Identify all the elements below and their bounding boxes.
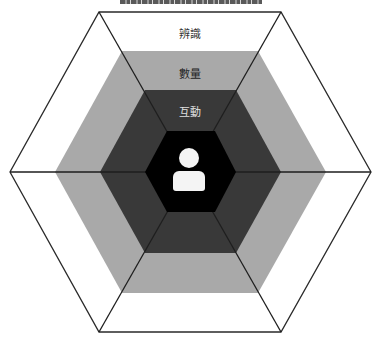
user-icon-body [173, 171, 205, 191]
label-middle: 數量 [160, 65, 220, 81]
user-icon-head [179, 148, 199, 168]
label-inner: 互動 [160, 103, 220, 119]
label-outer: 辨識 [160, 25, 220, 41]
user-icon [173, 148, 205, 194]
